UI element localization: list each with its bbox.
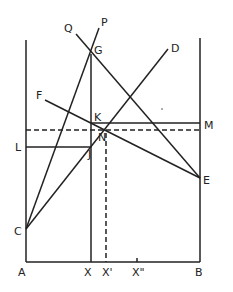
geometry-diagram: P Q G D F K M N L J E C A X X' X" B (0, 0, 233, 292)
label-X: X (84, 266, 92, 279)
label-G: G (94, 44, 103, 57)
label-X-double-prime: X" (132, 266, 145, 279)
label-C: C (14, 225, 22, 238)
label-Q: Q (64, 22, 73, 35)
label-J: J (87, 148, 91, 161)
label-B: B (195, 266, 203, 279)
label-K: K (94, 111, 102, 124)
stray-dot (161, 108, 163, 110)
label-L: L (15, 141, 22, 154)
line-CD (26, 49, 168, 229)
line-CP (26, 28, 99, 229)
label-N: N (98, 131, 106, 144)
label-F: F (36, 89, 42, 102)
label-X-prime: X' (102, 266, 113, 279)
label-M: M (204, 119, 214, 132)
label-E: E (203, 174, 210, 187)
label-A: A (18, 266, 26, 279)
line-FE (45, 100, 200, 178)
label-D: D (171, 42, 179, 55)
label-P: P (101, 16, 108, 29)
